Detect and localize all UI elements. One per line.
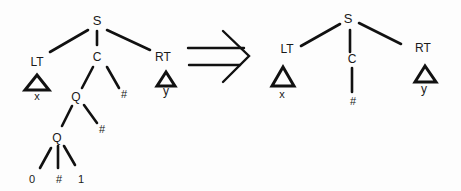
node-lt: LT bbox=[30, 55, 44, 69]
diagram-svg: S LT C RT x y Q # Q # 0 # 1 bbox=[0, 0, 461, 191]
edge-q2-1 bbox=[64, 146, 75, 165]
edge-s-lt bbox=[301, 24, 340, 46]
leaf-1: 1 bbox=[78, 173, 84, 185]
edge-s-rt bbox=[359, 23, 401, 44]
node-rt: RT bbox=[155, 50, 171, 64]
node-y: y bbox=[421, 82, 427, 96]
node-q-hash: # bbox=[99, 123, 106, 135]
edge-s-lt bbox=[50, 30, 88, 52]
node-rt: RT bbox=[415, 41, 431, 55]
edge-c-hash bbox=[107, 67, 119, 88]
after-tree: S LT C RT x y # bbox=[272, 11, 436, 106]
edge-c-q bbox=[82, 67, 93, 88]
subtree-triangle-icon bbox=[272, 67, 294, 86]
node-c: C bbox=[348, 52, 357, 66]
node-x: x bbox=[279, 88, 285, 100]
leaf-hash: # bbox=[56, 173, 63, 185]
node-q2: Q bbox=[52, 131, 61, 145]
node-s: S bbox=[93, 13, 102, 28]
double-arrow-right-icon bbox=[188, 31, 249, 82]
node-lt: LT bbox=[280, 42, 294, 56]
node-c: C bbox=[93, 50, 102, 64]
subtree-triangle-icon bbox=[415, 66, 436, 82]
before-tree: S LT C RT x y Q # Q # 0 # 1 bbox=[25, 13, 175, 184]
node-q: Q bbox=[71, 90, 80, 104]
edge-q-q2 bbox=[62, 106, 72, 126]
edge-s-rt bbox=[107, 30, 150, 50]
leaf-0: 0 bbox=[29, 173, 35, 185]
node-s: S bbox=[344, 11, 353, 26]
edge-q2-0 bbox=[40, 148, 51, 168]
node-c-hash: # bbox=[121, 88, 128, 100]
tree-transformation-diagram: S LT C RT x y Q # Q # 0 # 1 bbox=[0, 0, 461, 191]
node-x: x bbox=[34, 90, 40, 102]
subtree-triangle-icon bbox=[25, 75, 49, 90]
node-y: y bbox=[163, 84, 169, 98]
node-c-hash: # bbox=[350, 95, 357, 107]
edge-q-hash bbox=[84, 105, 97, 123]
